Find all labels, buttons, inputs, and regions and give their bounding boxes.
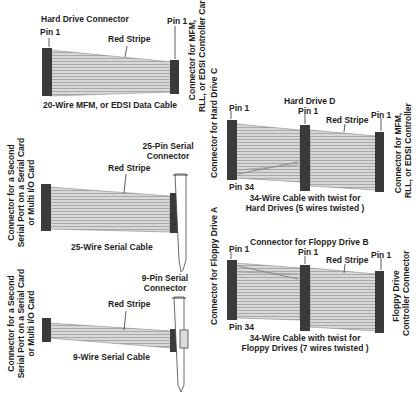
pin34-label: Pin 34 [229, 183, 254, 193]
serial-port-connector-label: Connector for a Second Serial Port on a … [7, 261, 36, 386]
hdd-connector-left [42, 48, 52, 96]
red-stripe-label: Red Stripe [108, 35, 151, 45]
floppy-controller-label: Floppy Drive Controller Connector [392, 256, 412, 336]
cable-caption: 9-Wire Serial Cable [73, 353, 150, 363]
controller-connector-right [170, 60, 179, 94]
label-line: Floppy Drives (7 wires twisted ) [230, 344, 380, 354]
label-line: Controller Connector [402, 256, 412, 336]
hdd-connector-label: Hard Drive Connector [41, 15, 129, 25]
controller-card-label: Connector for MFM, RLL, or EDSI Controll… [188, 8, 208, 112]
red-stripe-label: Red Stripe [326, 116, 369, 126]
pin34-label: Pin 34 [229, 323, 254, 333]
serial-port-connector-label: Connector for a Second Serial Port on a … [7, 130, 36, 255]
cable-25-wire-serial [41, 174, 188, 272]
hard-drive-c-label: Connector for Hard Drive C [210, 88, 220, 178]
label-line: or Multi I/O Card [27, 261, 37, 386]
controller-label: Connector for MFM, RLL, or EDSI Controll… [394, 108, 414, 198]
pin1-left-label: Pin 1 [229, 245, 249, 255]
serial-9-pin-label: 9-Pin Serial Connector [130, 274, 200, 294]
red-stripe-label: Red Stripe [326, 256, 369, 266]
label-line: RLL, or EDSI Controller Card [198, 8, 208, 112]
red-stripe-label: Red Stripe [108, 164, 151, 174]
pin1-middle-label: Pin 1 [298, 248, 318, 258]
cable-9-wire-serial [42, 297, 188, 392]
cable-caption: 25-Wire Serial Cable [71, 243, 153, 253]
red-stripe-label: Red Stripe [108, 300, 151, 310]
pin1-right-label: Pin 1 [371, 111, 391, 121]
pin1-middle-label: Pin 1 [298, 107, 318, 117]
label-line: Hard Drives (5 wires twisted ) [230, 204, 380, 214]
pin1-left-label: Pin 1 [40, 28, 60, 38]
label-line: RLL, or EDSI Controller [404, 108, 414, 198]
cable-caption: 34-Wire Cable with twist for Hard Drives… [230, 194, 380, 214]
floppy-drive-a-label: Connector for Floppy Drive A [210, 213, 220, 325]
label-line: Connector [130, 284, 200, 294]
pin1-right-label: Pin 1 [371, 251, 391, 261]
cable-caption: 34-Wire Cable with twist for Floppy Driv… [230, 334, 380, 354]
db9-port [180, 330, 188, 348]
cable-caption: 20-Wire MFM, or EDSI Data Cable [43, 101, 177, 111]
label-line: Connector [133, 152, 203, 162]
pin1-left-label: Pin 1 [229, 104, 249, 114]
label-line: or Multi I/O Card [27, 130, 37, 255]
pin1-right-label: Pin 1 [167, 17, 187, 27]
serial-25-pin-label: 25-Pin Serial Connector [133, 142, 203, 162]
